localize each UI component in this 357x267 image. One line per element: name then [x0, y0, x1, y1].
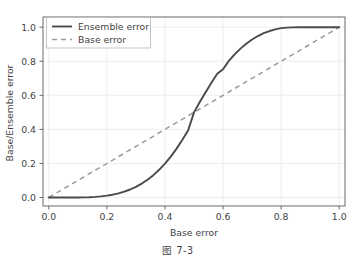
x-tick-label: 1.0 — [332, 211, 347, 222]
x-tick-label: 0.0 — [41, 211, 56, 222]
y-tick-label: 0.6 — [21, 90, 36, 101]
chart-legend[interactable]: Ensemble error Base error — [47, 18, 151, 49]
x-axis-label: Base error — [170, 227, 218, 238]
y-tick-label: 1.0 — [21, 22, 36, 33]
y-tick-label: 0.0 — [21, 192, 36, 203]
x-tick-label: 0.2 — [99, 211, 114, 222]
figure-container: 0.00.20.40.60.81.0 0.00.20.40.60.81.0 Ba… — [0, 0, 357, 267]
y-tick-label: 0.4 — [21, 124, 36, 135]
y-axis-label: Base/Ensemble error — [4, 64, 15, 161]
x-tick-label: 0.6 — [216, 211, 231, 222]
x-tick-label: 0.8 — [274, 211, 289, 222]
x-tick-label: 0.4 — [158, 211, 173, 222]
y-tick-label: 0.2 — [21, 158, 36, 169]
figure-caption: 图 7-3 — [162, 245, 193, 256]
y-tick-label: 0.8 — [21, 56, 36, 67]
legend-label-ensemble-error: Ensemble error — [78, 21, 149, 32]
ensemble-error-chart: 0.00.20.40.60.81.0 0.00.20.40.60.81.0 Ba… — [0, 0, 357, 267]
legend-label-base-error: Base error — [78, 34, 126, 45]
